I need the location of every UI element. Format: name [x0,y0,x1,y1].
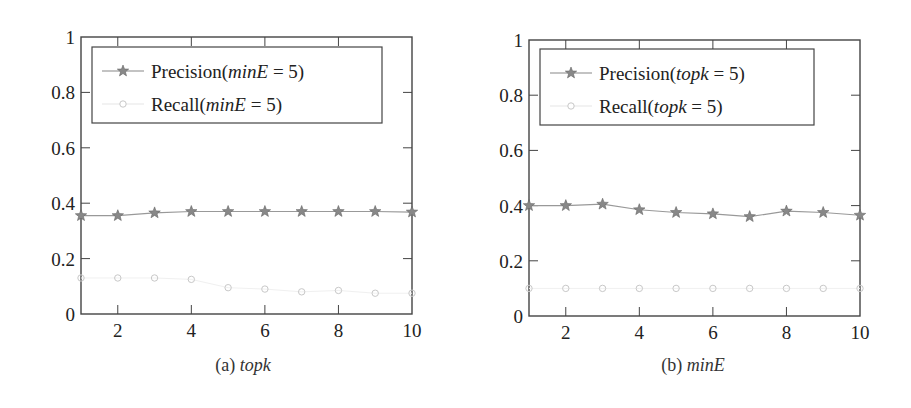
circle-marker-icon [120,101,126,107]
x-tick-label: 10 [851,322,870,343]
y-tick-label: 0.8 [499,85,523,106]
star-marker-icon [259,206,270,217]
caption-prefix: (b) [661,355,682,375]
caption-b: (b) minE [543,355,843,376]
caption-prefix: (a) [215,355,235,375]
x-tick-label: 2 [113,320,123,341]
y-tick-label: 0.6 [51,138,75,159]
star-marker-icon [818,207,829,218]
star-marker-icon [560,200,571,211]
star-marker-icon [744,211,755,222]
legend-entry: Precision(topk = 5) [599,63,745,85]
legend-entry: Recall(topk = 5) [599,96,723,118]
legend: Precision(topk = 5)Recall(topk = 5) [540,49,814,125]
star-marker-icon [296,206,307,217]
legend: Precision(minE = 5)Recall(minE = 5) [92,47,382,123]
legend-entry: Recall(minE = 5) [151,94,282,116]
chart-minE: 00.20.40.60.81246810Precision(topk = 5)R… [460,0,911,408]
x-tick-label: 6 [260,320,270,341]
x-tick-label: 6 [708,322,718,343]
precision-line [529,204,860,216]
chart-topk: 00.20.40.60.81246810Precision(minE = 5)R… [0,0,460,408]
x-tick-label: 4 [187,320,197,341]
x-tick-label: 10 [403,320,422,341]
y-tick-label: 0 [66,304,76,325]
y-tick-label: 1 [514,30,524,51]
y-tick-label: 0.2 [499,251,523,272]
caption-variable: topk [240,355,271,375]
star-marker-icon [634,204,645,215]
caption-variable: minE [687,355,725,375]
y-tick-label: 0.4 [51,193,75,214]
y-tick-label: 0.8 [51,82,75,103]
star-marker-icon [781,205,793,216]
star-marker-icon [149,207,161,218]
x-tick-label: 8 [334,320,344,341]
precision-line [81,212,412,216]
legend-entry: Precision(minE = 5) [151,61,304,83]
chart-panel-b: 00.20.40.60.81246810Precision(topk = 5)R… [460,0,911,408]
y-tick-label: 0 [514,306,524,327]
star-marker-icon [707,208,718,219]
circle-marker-icon [568,103,574,109]
y-tick-label: 0.4 [499,196,523,217]
x-tick-label: 4 [635,322,645,343]
x-tick-label: 8 [782,322,792,343]
star-marker-icon [597,198,609,209]
star-marker-icon [112,210,123,221]
star-marker-icon [333,206,345,217]
star-marker-icon [222,206,233,217]
y-tick-label: 1 [66,27,76,48]
star-marker-icon [370,206,381,217]
caption-a: (a) topk [93,355,393,376]
chart-panel-a: 00.20.40.60.81246810Precision(minE = 5)R… [0,0,460,408]
x-tick-label: 2 [561,322,571,343]
star-marker-icon [670,207,681,218]
y-tick-label: 0.2 [51,249,75,270]
y-tick-label: 0.6 [499,140,523,161]
star-marker-icon [186,206,197,217]
recall-line [81,278,412,293]
